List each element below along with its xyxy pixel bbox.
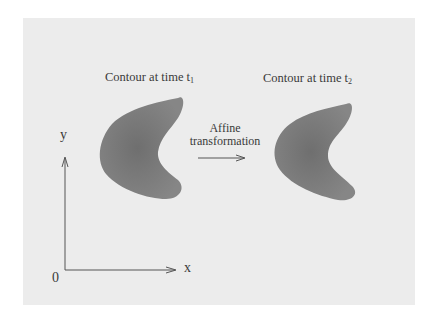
contour-shape-t1	[100, 97, 184, 199]
contour-t2-label: Contour at time t2	[263, 72, 352, 86]
diagram-canvas	[0, 0, 433, 322]
transform-arrow	[198, 155, 245, 161]
y-axis	[62, 157, 68, 270]
affine-transformation-label: Affine transformation	[183, 122, 267, 148]
y-axis-label: y	[60, 128, 67, 142]
contour-shape-t2	[275, 103, 356, 200]
x-axis	[65, 267, 176, 273]
origin-label: 0	[52, 271, 59, 285]
affine-line2: transformation	[183, 135, 267, 148]
contour-t1-label: Contour at time t1	[105, 71, 194, 85]
x-axis-label: x	[184, 261, 191, 275]
